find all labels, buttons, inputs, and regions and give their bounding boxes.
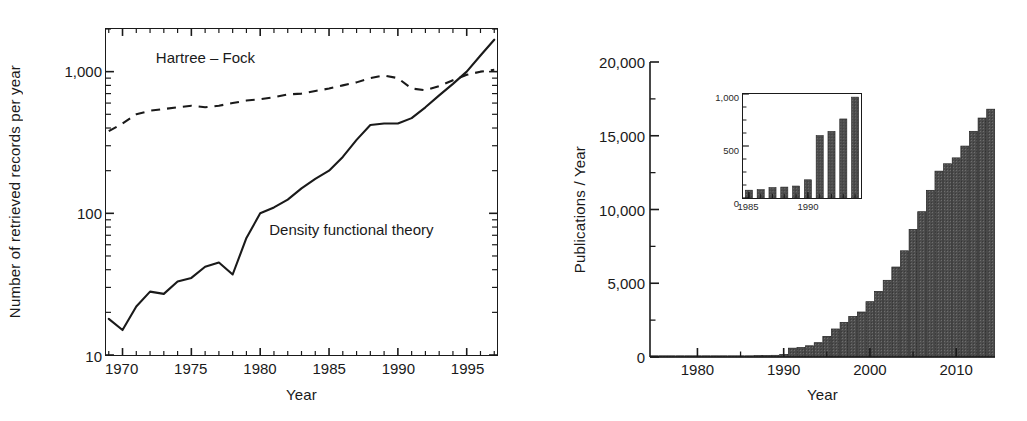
left-x-tick-labels: 197019751980198519901995 [105, 360, 498, 382]
right-y-tick: 10,000 [599, 201, 645, 218]
annotation-hartree-fock: Hartree – Fock [156, 49, 255, 66]
right-x-axis-title: Year [650, 386, 995, 404]
bar [814, 343, 822, 357]
left-y-tick: 100 [77, 205, 102, 222]
bar [918, 212, 926, 357]
inset-plot-svg [743, 94, 861, 198]
bar [857, 312, 865, 357]
right-y-tick: 5,000 [607, 275, 645, 292]
right-x-tick-labels: 1980199020002010 [650, 361, 995, 383]
left-y-tick: 10 [85, 348, 102, 365]
inset-y-tick-labels: 05001,000 [704, 93, 739, 199]
left-plot-area: Hartree – Fock Density functional theory [105, 28, 498, 356]
inset-x-tick-labels: 19851990 [742, 201, 862, 215]
bar [849, 316, 857, 357]
inset-bar [840, 119, 847, 198]
left-axis-ticks [106, 29, 497, 355]
left-x-axis-title: Year [105, 386, 498, 404]
bar [935, 171, 943, 357]
inset-x-tick: 1990 [797, 201, 818, 212]
right-plot-area: 05001,000 19851990 [650, 62, 995, 357]
inset-bar [816, 136, 823, 198]
inset-bar-group [745, 97, 858, 198]
right-bar-chart-panel: Publications / Year 05,00010,00015,00020… [513, 0, 1027, 421]
bar [840, 322, 848, 357]
right-y-tick: 0 [637, 349, 645, 366]
right-y-tick-labels: 05,00010,00015,00020,000 [573, 62, 645, 357]
bar [909, 229, 917, 357]
series-density-functional-theory [109, 40, 494, 330]
left-y-tick: 1,000 [64, 62, 102, 79]
left-plot-svg [106, 29, 497, 355]
bar [926, 190, 934, 357]
bar [806, 346, 814, 357]
left-x-tick: 1975 [174, 360, 207, 377]
bar [788, 348, 796, 357]
bar [952, 158, 960, 357]
left-y-axis-title: Number of retrieved records per year [6, 28, 23, 356]
left-x-tick: 1990 [382, 360, 415, 377]
left-x-tick: 1970 [105, 360, 138, 377]
right-x-tick: 1980 [681, 361, 714, 378]
figure-two-panel: Number of retrieved records per year 101… [0, 0, 1027, 421]
bar [978, 118, 986, 357]
left-y-tick-labels: 101001,000 [40, 28, 102, 356]
right-x-tick: 2000 [853, 361, 886, 378]
annotation-density-functional-theory: Density functional theory [269, 221, 433, 238]
bar [797, 348, 805, 357]
bar [831, 329, 839, 357]
right-y-tick: 20,000 [599, 54, 645, 71]
bar [961, 146, 969, 357]
bar [883, 280, 891, 357]
bar [892, 267, 900, 357]
bar [944, 164, 952, 357]
inset-bar [852, 97, 859, 198]
inset-y-tick: 500 [723, 145, 739, 156]
inset-axis-ticks [743, 94, 855, 198]
right-x-tick: 2010 [940, 361, 973, 378]
inset-x-tick: 1985 [737, 201, 758, 212]
left-x-tick: 1980 [243, 360, 276, 377]
inset-y-tick: 1,000 [715, 92, 739, 103]
bar [987, 109, 995, 357]
inset-plot-area [742, 93, 862, 199]
right-y-tick: 15,000 [599, 127, 645, 144]
bar [969, 131, 977, 357]
left-line-chart-panel: Number of retrieved records per year 101… [0, 0, 513, 421]
series-hartree-fock [109, 70, 494, 131]
bar [900, 251, 908, 357]
left-x-tick: 1985 [312, 360, 345, 377]
inset-chart: 05001,000 19851990 [704, 89, 867, 219]
right-x-tick: 1990 [767, 361, 800, 378]
bar [875, 291, 883, 357]
inset-bar [828, 131, 835, 198]
left-x-tick: 1995 [451, 360, 484, 377]
